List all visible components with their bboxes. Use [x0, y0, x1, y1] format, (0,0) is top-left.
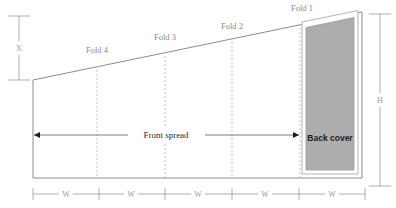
- w-label-3: W: [194, 190, 202, 199]
- fold-label-1: Fold 1: [291, 3, 313, 13]
- w-label-1: W: [62, 190, 70, 199]
- fold-label-4: Fold 4: [86, 45, 109, 55]
- back-cover-label: Back cover: [307, 133, 353, 143]
- x-dimension-label: X: [16, 44, 22, 53]
- fold-label-3: Fold 3: [154, 32, 176, 42]
- fold-diagram-svg: Fold 4 Fold 3 Fold 2 Fold 1 X H W W W W …: [0, 0, 396, 208]
- w-label-2: W: [127, 190, 135, 199]
- fold-label-2: Fold 2: [221, 21, 243, 31]
- w-label-4: W: [261, 190, 269, 199]
- back-cover-panel: [306, 18, 354, 171]
- fold-diagram-container: Fold 4 Fold 3 Fold 2 Fold 1 X H W W W W …: [0, 0, 396, 208]
- h-dimension-label: H: [377, 96, 383, 105]
- w-label-5: W: [328, 190, 336, 199]
- front-spread-label: Front spread: [143, 130, 189, 140]
